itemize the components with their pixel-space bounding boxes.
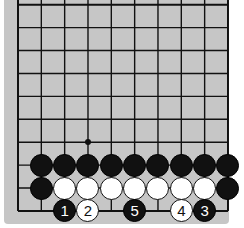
black-stone: [100, 154, 123, 177]
white-stone: [100, 177, 123, 200]
black-stone: [170, 154, 193, 177]
black-stone: [30, 154, 53, 177]
white-stone: [123, 177, 146, 200]
white-stone: [53, 177, 76, 200]
black-stone: [53, 154, 76, 177]
black-stone: [216, 177, 239, 200]
black-stone: [146, 154, 169, 177]
white-stone: [76, 177, 99, 200]
white-stone: [193, 177, 216, 200]
black-stone: [123, 154, 146, 177]
black-stone: [216, 154, 239, 177]
black-stone: [193, 154, 216, 177]
black-stone: [76, 154, 99, 177]
white-stone: [170, 177, 193, 200]
white-stone: [146, 177, 169, 200]
black-stone: [30, 177, 53, 200]
